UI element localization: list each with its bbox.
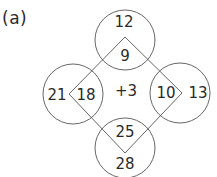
- bottom-outer-number: 28: [115, 155, 134, 173]
- left-outer-number: 21: [47, 86, 66, 104]
- top-outer-number: 12: [114, 13, 133, 31]
- top-inner-number: 9: [120, 47, 130, 65]
- left-inner-number: 18: [76, 86, 95, 104]
- number-puzzle-diagram: 12 9 21 18 10 13 +3 25 28: [0, 0, 217, 177]
- right-inner-number: 10: [156, 84, 175, 102]
- right-outer-number: 13: [188, 84, 207, 102]
- bottom-inner-number: 25: [115, 123, 134, 141]
- center-operation: +3: [115, 82, 137, 100]
